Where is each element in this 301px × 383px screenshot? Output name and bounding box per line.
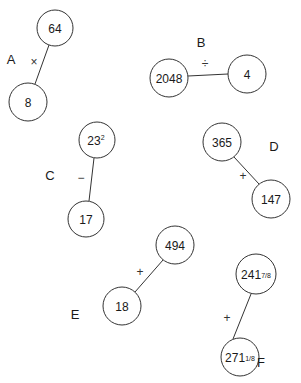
math-operations-diagram: 64 8 A × 2048 4 B ÷ 232 17 C [0,0,301,383]
label-b: B [197,35,206,50]
problem-b: 2048 4 B ÷ [150,35,266,98]
node-e-top: 494 [156,226,194,264]
problem-a: 64 8 A × [7,10,73,121]
value-e-bottom: 18 [115,300,129,314]
value-b-right: 4 [244,68,251,82]
operator-d: + [239,169,246,183]
operator-b: ÷ [202,57,209,71]
edge-b [188,74,228,76]
node-a-top: 64 [37,10,73,46]
label-d: D [269,139,278,154]
node-a-bottom: 8 [9,83,47,121]
problem-c: 232 17 C − [45,122,115,237]
operator-a: × [30,55,37,69]
value-b-left: 2048 [156,72,183,86]
edge-c [89,158,94,201]
operator-f: + [223,311,230,325]
value-d-bottom: 147 [261,193,281,207]
problem-e: 494 18 E + [71,226,194,325]
label-a: A [7,52,16,67]
node-d-top: 365 [203,123,241,161]
value-e-top: 494 [165,239,185,253]
edge-f [233,294,251,339]
label-c: C [45,168,54,183]
problem-f: 2417/8 2711/8 F + [221,254,276,376]
operator-c: − [77,171,84,185]
node-f-top: 2417/8 [236,254,276,294]
node-b-left: 2048 [150,59,188,97]
node-d-bottom: 147 [252,180,290,218]
operator-e: + [136,265,143,279]
label-f: F [257,355,265,370]
node-c-top: 232 [79,122,115,158]
value-a-bottom: 8 [25,96,32,110]
label-e: E [71,307,80,322]
node-c-bottom: 17 [68,201,104,237]
problem-d: 365 147 D + [203,123,290,218]
node-f-bottom: 2711/8 [221,338,259,376]
node-e-bottom: 18 [103,287,141,325]
node-b-right: 4 [228,55,266,93]
value-d-top: 365 [212,136,232,150]
value-a-top: 64 [48,22,62,36]
value-c-bottom: 17 [79,213,93,227]
